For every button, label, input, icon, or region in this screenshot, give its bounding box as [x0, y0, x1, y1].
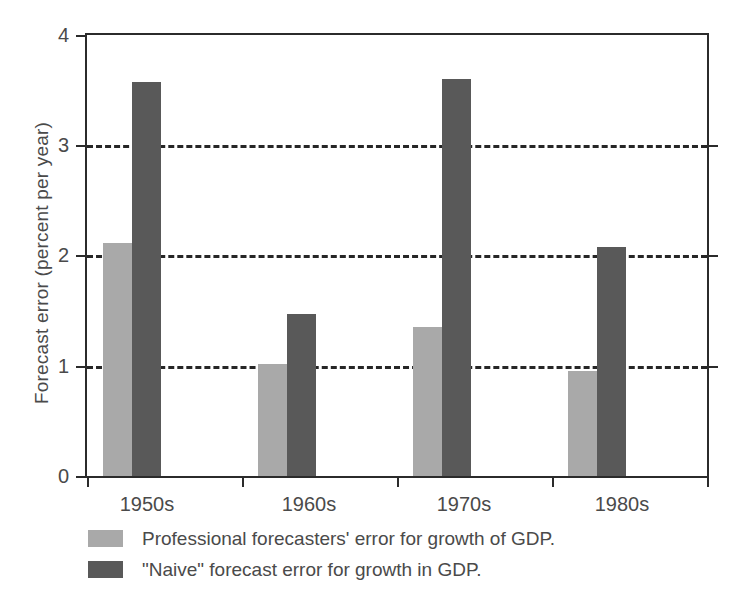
legend-item-naive: "Naive" forecast error for growth in GDP… [88, 554, 555, 585]
y-tick-label-2: 2 [33, 245, 69, 265]
legend: Professional forecasters' error for grow… [88, 523, 555, 585]
bar-naive-1960s [287, 314, 316, 476]
y-tick-label-3: 3 [33, 135, 69, 155]
y-tick-1 [76, 366, 87, 368]
bar-naive-1950s [132, 82, 161, 476]
y-tick-label-0: 0 [33, 466, 69, 486]
legend-label-naive: "Naive" forecast error for growth in GDP… [142, 559, 481, 581]
x-tick-edge-left [87, 476, 89, 487]
y-tick-2 [76, 255, 87, 257]
x-tick-label-1970s: 1970s [404, 493, 524, 516]
x-tick-label-1950s: 1950s [87, 493, 207, 516]
y-tick-right-1 [707, 366, 718, 368]
bar-naive-1970s [442, 79, 471, 476]
y-tick-label-4: 4 [33, 25, 69, 45]
x-tick-boundary-3 [552, 476, 554, 487]
bar-chart-figure: Forecast error (percent per year) 4 3 2 … [0, 0, 735, 593]
legend-swatch-professional [88, 530, 123, 547]
bar-naive-1980s [597, 247, 626, 476]
x-tick-boundary-1 [242, 476, 244, 487]
plot-area: 4 3 2 1 0 1950s 1960s 1970s 1980s [85, 33, 709, 478]
y-tick-4 [76, 35, 87, 37]
y-tick-0 [76, 476, 87, 478]
x-tick-label-1960s: 1960s [249, 493, 369, 516]
legend-item-professional: Professional forecasters' error for grow… [88, 523, 555, 554]
legend-swatch-naive [88, 561, 123, 578]
bar-professional-1980s [568, 371, 597, 476]
x-tick-edge-right [707, 476, 709, 487]
bar-professional-1950s [103, 243, 132, 476]
y-tick-right-2 [707, 255, 718, 257]
x-tick-boundary-2 [397, 476, 399, 487]
gridline-3 [87, 145, 707, 148]
y-tick-right-3 [707, 145, 718, 147]
bar-professional-1960s [258, 364, 287, 476]
legend-label-professional: Professional forecasters' error for grow… [142, 528, 555, 550]
y-tick-label-1: 1 [33, 356, 69, 376]
bar-professional-1970s [413, 327, 442, 476]
y-tick-3 [76, 145, 87, 147]
x-tick-label-1980s: 1980s [562, 493, 682, 516]
